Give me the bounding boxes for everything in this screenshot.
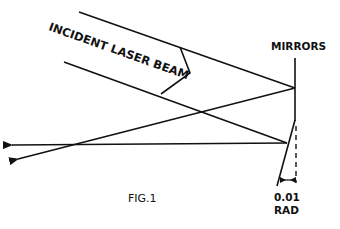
angle-unit-label: RAD	[274, 204, 299, 216]
figure-caption: FIG.1	[128, 192, 157, 205]
incident-beam-label: INCIDENT LASER BEAM	[47, 20, 191, 82]
reflected-beam-lower	[12, 143, 287, 145]
laser-mirror-diagram: INCIDENT LASER BEAM MIRRORS 0.01 RAD FIG…	[0, 0, 340, 229]
reflected-beam-upper	[18, 88, 295, 159]
lower-tilted-mirror	[277, 120, 295, 186]
angle-value-label: 0.01	[274, 191, 300, 203]
mirrors-label: MIRRORS	[271, 40, 326, 52]
